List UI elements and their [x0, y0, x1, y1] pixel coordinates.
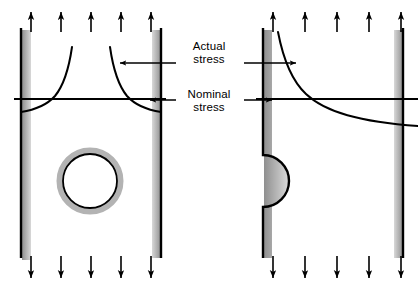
circular-hole [63, 154, 117, 208]
left-panel-left-edge-shadow [22, 30, 31, 260]
right-panel-top-load-arrows [273, 12, 401, 32]
left-panel-bottom-load-arrows [31, 256, 151, 278]
right-panel-bottom-load-arrows [273, 256, 401, 278]
left-panel-plate-with-hole [14, 12, 166, 278]
left-panel-right-edge-shadow [152, 30, 161, 258]
right-panel-right-edge-shadow [394, 30, 403, 258]
nominal-stress-label: Nominal stress [176, 88, 242, 114]
left-panel-top-load-arrows [31, 12, 151, 32]
right-panel-plate-with-notch [256, 12, 418, 278]
stress-concentration-figure: Actual stress Nominal stress [0, 0, 418, 289]
actual-stress-label: Actual stress [178, 40, 240, 66]
right-panel-left-edge-shadow [264, 30, 288, 258]
